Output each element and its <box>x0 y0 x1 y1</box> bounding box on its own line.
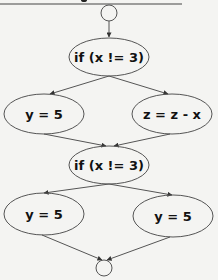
assign_z-label: z = z - x <box>143 107 202 122</box>
heading-fragment <box>81 0 87 2</box>
node-assign_z: z = z - x <box>132 94 212 134</box>
edge-assign_z-to-cond2 <box>114 134 170 146</box>
node-assign_y2: y = 5 <box>4 193 84 235</box>
assign_y1-label: y = 5 <box>25 107 62 122</box>
node-assign_y1: y = 5 <box>4 94 84 134</box>
node-cond1: if (x != 3) <box>69 38 149 76</box>
edge-assign_y2-to-exit <box>42 235 102 260</box>
cond1-label: if (x != 3) <box>74 50 144 65</box>
exit-circle <box>96 260 112 276</box>
edge-assign_y1-to-cond2 <box>44 134 106 146</box>
edge-cond1-to-assign_z <box>109 76 168 94</box>
entry-circle <box>101 5 117 21</box>
assign_y3-label: y = 5 <box>154 209 191 224</box>
edge-cond2-to-assign_y2 <box>44 184 109 193</box>
edge-cond2-to-assign_y3 <box>109 184 172 195</box>
node-assign_y3: y = 5 <box>133 195 213 237</box>
cond2-label: if (x != 3) <box>74 158 144 173</box>
node-cond2: if (x != 3) <box>69 146 149 184</box>
edge-cond1-to-assign_y1 <box>50 76 109 94</box>
edge-assign_y3-to-exit <box>107 237 170 260</box>
nodes-layer: if (x != 3)y = 5z = z - xif (x != 3)y = … <box>4 5 213 276</box>
control-flow-diagram: if (x != 3)y = 5z = z - xif (x != 3)y = … <box>0 0 218 280</box>
node-entry <box>101 5 117 21</box>
assign_y2-label: y = 5 <box>25 207 62 222</box>
node-exit <box>96 260 112 276</box>
